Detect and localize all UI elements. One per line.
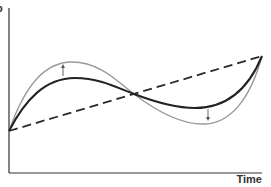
y-axis-label-fragment: p (0, 2, 3, 14)
chart-canvas (0, 0, 271, 187)
down-arrow-icon (206, 109, 210, 121)
x-axis-label: Time (237, 173, 262, 185)
up-arrow-icon (61, 64, 65, 76)
